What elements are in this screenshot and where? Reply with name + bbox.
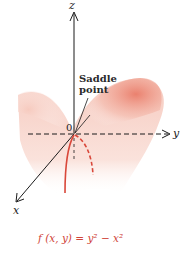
- annotation-line-2: point: [79, 84, 117, 95]
- x-axis-label: x: [13, 204, 19, 217]
- origin-label: 0: [66, 122, 72, 133]
- z-axis-label: z: [69, 0, 75, 12]
- y-axis-label: y: [173, 127, 179, 140]
- saddle-point-annotation: Saddle point: [79, 73, 117, 95]
- annotation-line-1: Saddle: [79, 73, 117, 84]
- saddle-surface: [18, 78, 164, 225]
- saddle-surface-diagram: [0, 0, 190, 253]
- function-caption: f (x, y) = y² − x²: [38, 232, 123, 244]
